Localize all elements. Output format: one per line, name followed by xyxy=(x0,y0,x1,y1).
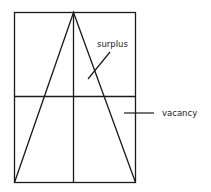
diagram: surplus vacancy xyxy=(0,0,211,192)
outer-rectangle xyxy=(15,13,136,183)
surplus-leader-line xyxy=(88,52,110,79)
triangle-grid-diagram: surplus vacancy xyxy=(0,0,211,192)
vacancy-label: vacancy xyxy=(162,108,197,118)
triangle xyxy=(15,13,136,183)
surplus-label: surplus xyxy=(97,39,128,49)
